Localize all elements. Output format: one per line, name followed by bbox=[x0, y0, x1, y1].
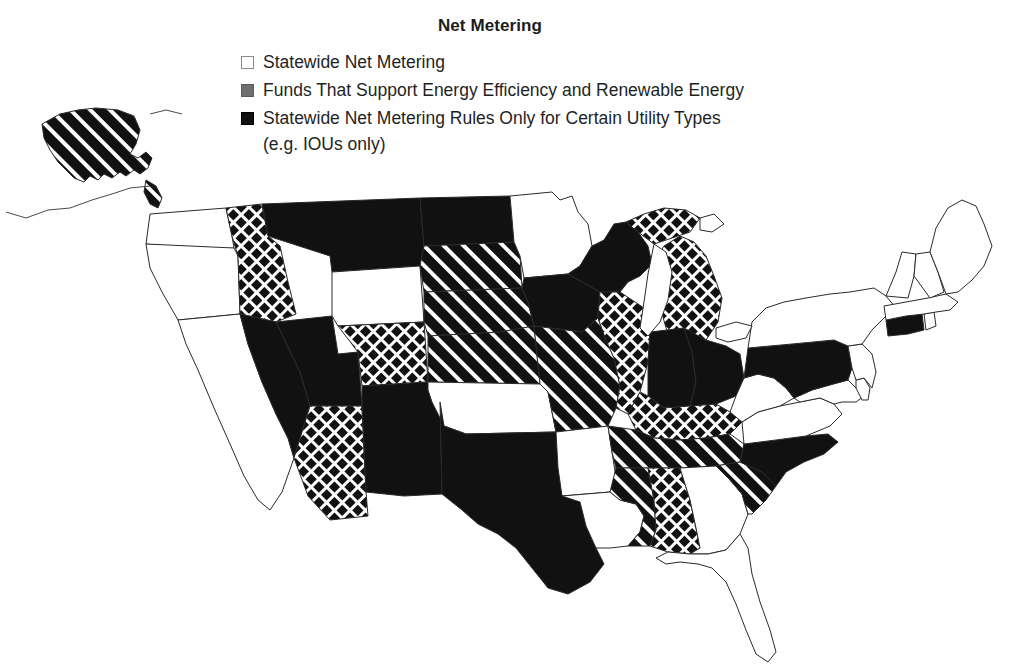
state-new-mexico bbox=[362, 382, 442, 496]
state-montana bbox=[262, 198, 424, 272]
state-arizona bbox=[294, 406, 368, 520]
net-metering-map-figure: Net Metering Statewide Net Metering Fund… bbox=[0, 0, 1024, 668]
state-south-dakota bbox=[420, 242, 522, 292]
state-alaska bbox=[42, 108, 152, 182]
state-minnesota bbox=[510, 192, 592, 278]
us-map-svg bbox=[0, 96, 1024, 668]
state-florida bbox=[656, 534, 776, 662]
legend-item-statewide-net-metering: Statewide Net Metering bbox=[241, 51, 941, 77]
state-north-dakota bbox=[420, 196, 514, 246]
state-new-york bbox=[748, 288, 896, 348]
white-square-swatch bbox=[241, 56, 254, 69]
lake-erie-sliver bbox=[716, 322, 752, 342]
state-arkansas bbox=[556, 426, 616, 496]
state-wyoming bbox=[332, 266, 424, 326]
state-oklahoma bbox=[428, 382, 556, 434]
state-kansas bbox=[428, 326, 540, 384]
us-map bbox=[0, 96, 1024, 668]
state-oregon bbox=[146, 244, 240, 320]
page-title: Net Metering bbox=[0, 16, 1024, 36]
state-alaska-aleutian-tail bbox=[144, 180, 162, 208]
lake-superior-sliver bbox=[700, 214, 724, 232]
state-rhode-island bbox=[924, 312, 936, 330]
state-vermont bbox=[886, 252, 916, 298]
legend-item-label: Statewide Net Metering bbox=[263, 51, 445, 74]
